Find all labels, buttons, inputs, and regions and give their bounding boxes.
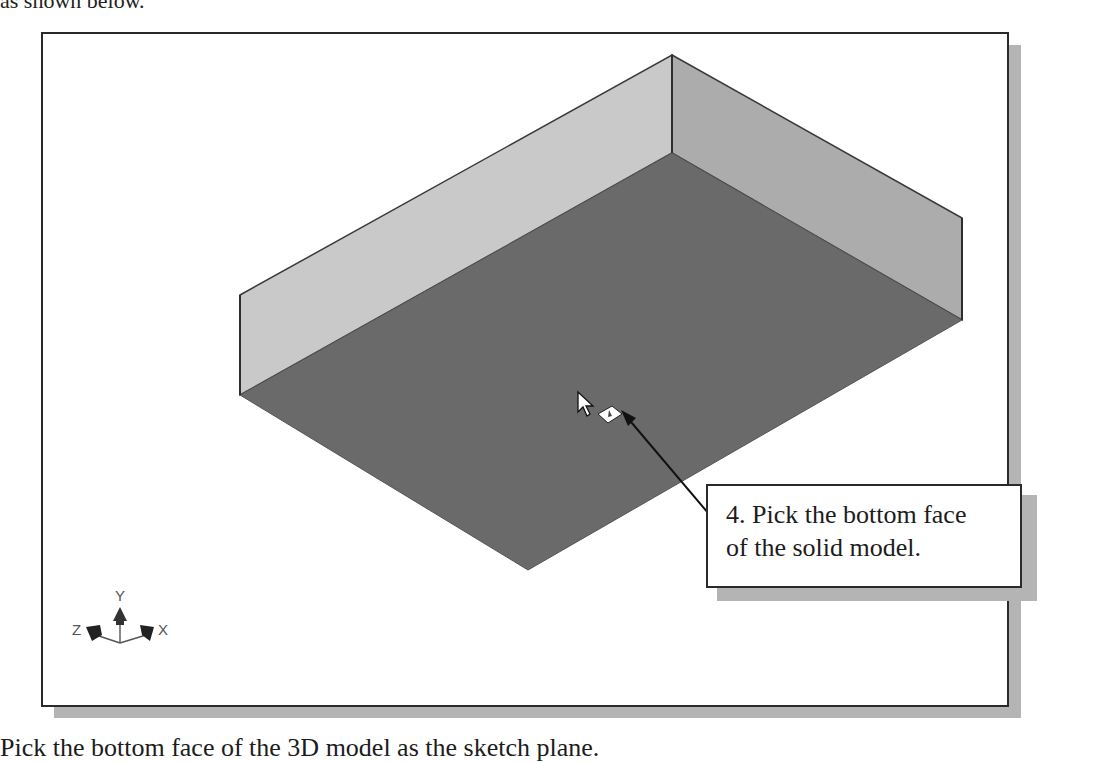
- callout-line-1: 4. Pick the bottom face: [726, 498, 1020, 531]
- axis-label-y: Y: [115, 587, 125, 604]
- axis-label-z: Z: [72, 621, 81, 638]
- instruction-callout: 4. Pick the bottom face of the solid mod…: [706, 484, 1022, 588]
- callout-line-2: of the solid model.: [726, 531, 1020, 564]
- axis-label-x: X: [158, 621, 168, 638]
- bottom-caption: Pick the bottom face of the 3D model as …: [0, 733, 599, 763]
- axis-triad: Y Z X: [66, 595, 176, 665]
